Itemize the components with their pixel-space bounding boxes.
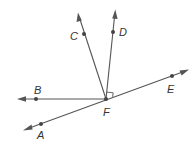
label-E: E bbox=[167, 83, 175, 95]
angle-diagram: C D B E F A bbox=[0, 0, 196, 148]
point-A bbox=[39, 122, 43, 126]
ray-FB bbox=[17, 96, 106, 101]
point-F bbox=[104, 97, 108, 101]
arrow-head-E-icon bbox=[180, 70, 190, 76]
label-A: A bbox=[36, 129, 44, 141]
label-C: C bbox=[70, 30, 78, 42]
point-E bbox=[170, 74, 174, 78]
label-F: F bbox=[103, 106, 111, 118]
ray-FC bbox=[77, 13, 107, 100]
label-B: B bbox=[34, 84, 41, 96]
right-angle-marker-icon bbox=[107, 92, 114, 97]
ray-FD bbox=[106, 10, 118, 100]
point-D bbox=[111, 30, 115, 34]
label-D: D bbox=[119, 26, 127, 38]
arrow-head-B-icon bbox=[17, 96, 26, 101]
arrow-head-C-icon bbox=[77, 13, 82, 23]
point-B bbox=[34, 97, 38, 101]
arrow-head-A-icon bbox=[23, 125, 33, 131]
arrow-head-D-icon bbox=[112, 10, 117, 20]
point-C bbox=[82, 32, 86, 36]
